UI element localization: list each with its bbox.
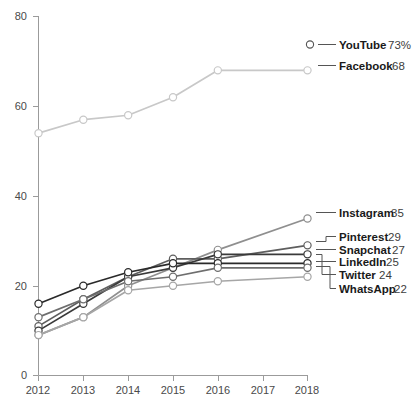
line-chart-container: 80 60 40 20 0 2012 2013 2014 2015 2016 2…	[0, 0, 412, 407]
legend-label-linkedin: LinkedIn	[339, 256, 386, 268]
y-tick-label-60: 60	[15, 100, 27, 112]
legend-label-whatsapp: WhatsApp	[339, 283, 396, 295]
legend-item-instagram[interactable]: Instagram 35	[339, 207, 404, 219]
legend-item-pinterest[interactable]: Pinterest 29	[339, 231, 401, 243]
data-point-whatsapp[interactable]	[304, 273, 311, 280]
legend-value-pinterest: 29	[388, 231, 401, 243]
data-point-twitter[interactable]	[214, 264, 221, 271]
y-tick-label-0: 0	[21, 369, 27, 381]
data-point-snapchat[interactable]	[214, 251, 221, 258]
data-point-twitter[interactable]	[169, 273, 176, 280]
legend-value-linkedin: 25	[386, 256, 399, 268]
y-tick-label-40: 40	[15, 190, 27, 202]
data-point-facebook[interactable]	[35, 130, 42, 137]
data-point-whatsapp[interactable]	[214, 278, 221, 285]
legend-label-pinterest: Pinterest	[339, 231, 388, 243]
legend: YouTube 73% Facebook 68 Instagram 35 Pin…	[339, 39, 411, 295]
leader-line-whatsapp	[316, 267, 336, 289]
data-point-snapchat[interactable]	[304, 251, 311, 258]
x-tick-label-2016: 2016	[206, 384, 230, 396]
legend-value-whatsapp: 22	[394, 283, 407, 295]
legend-value-facebook: 68	[392, 60, 405, 72]
x-tick-label-2018: 2018	[295, 384, 319, 396]
x-tick-label-2015: 2015	[161, 384, 185, 396]
legend-item-snapchat[interactable]: Snapchat 27	[339, 244, 405, 256]
data-point-twitter[interactable]	[125, 278, 132, 285]
legend-label-twitter: Twitter	[339, 269, 376, 281]
leader-line-pinterest	[316, 237, 336, 242]
data-point-whatsapp[interactable]	[80, 314, 87, 321]
data-point-facebook[interactable]	[125, 112, 132, 119]
legend-item-youtube[interactable]: YouTube 73%	[339, 39, 411, 51]
y-tick-label-20: 20	[15, 280, 27, 292]
legend-item-twitter[interactable]: Twitter 24	[339, 269, 392, 281]
data-point-linkedin[interactable]	[169, 260, 176, 267]
x-tick-label-2013: 2013	[71, 384, 95, 396]
data-point-facebook[interactable]	[80, 116, 87, 123]
data-point-facebook[interactable]	[214, 67, 221, 74]
y-tick-label-80: 80	[15, 10, 27, 22]
legend-item-facebook[interactable]: Facebook 68	[339, 60, 405, 72]
series-layer	[35, 67, 311, 339]
data-point-twitter[interactable]	[304, 264, 311, 271]
legend-item-whatsapp[interactable]: WhatsApp 22	[339, 283, 407, 295]
x-tick-label-2014: 2014	[116, 384, 140, 396]
data-point-linkedin[interactable]	[80, 282, 87, 289]
x-tick-label-2017: 2017	[251, 384, 275, 396]
legend-label-snapchat: Snapchat	[339, 244, 391, 256]
legend-marker-youtube	[306, 41, 313, 48]
data-point-facebook[interactable]	[169, 94, 176, 101]
legend-item-linkedin[interactable]: LinkedIn 25	[339, 256, 399, 268]
legend-value-twitter: 24	[379, 269, 392, 281]
data-point-linkedin[interactable]	[35, 300, 42, 307]
data-point-whatsapp[interactable]	[35, 332, 42, 339]
data-point-facebook[interactable]	[304, 67, 311, 74]
data-point-linkedin[interactable]	[125, 269, 132, 276]
legend-value-instagram: 35	[391, 207, 404, 219]
legend-leader-lines	[306, 41, 336, 289]
x-axis: 2012 2013 2014 2015 2016 2017 2018	[26, 376, 319, 397]
data-point-twitter[interactable]	[80, 296, 87, 303]
legend-value-youtube: 73%	[388, 39, 411, 51]
data-point-twitter[interactable]	[35, 314, 42, 321]
data-point-whatsapp[interactable]	[169, 282, 176, 289]
legend-label-instagram: Instagram	[339, 207, 394, 219]
data-point-pinterest[interactable]	[304, 242, 311, 249]
x-tick-label-2012: 2012	[26, 384, 50, 396]
legend-value-snapchat: 27	[392, 244, 405, 256]
leader-line-twitter	[316, 255, 336, 275]
series-line-facebook	[39, 70, 308, 133]
data-point-whatsapp[interactable]	[125, 287, 132, 294]
legend-label-youtube: YouTube	[339, 39, 386, 51]
chart-canvas: 80 60 40 20 0 2012 2013 2014 2015 2016 2…	[0, 0, 412, 407]
legend-label-facebook: Facebook	[339, 60, 393, 72]
data-point-instagram[interactable]	[304, 215, 311, 222]
